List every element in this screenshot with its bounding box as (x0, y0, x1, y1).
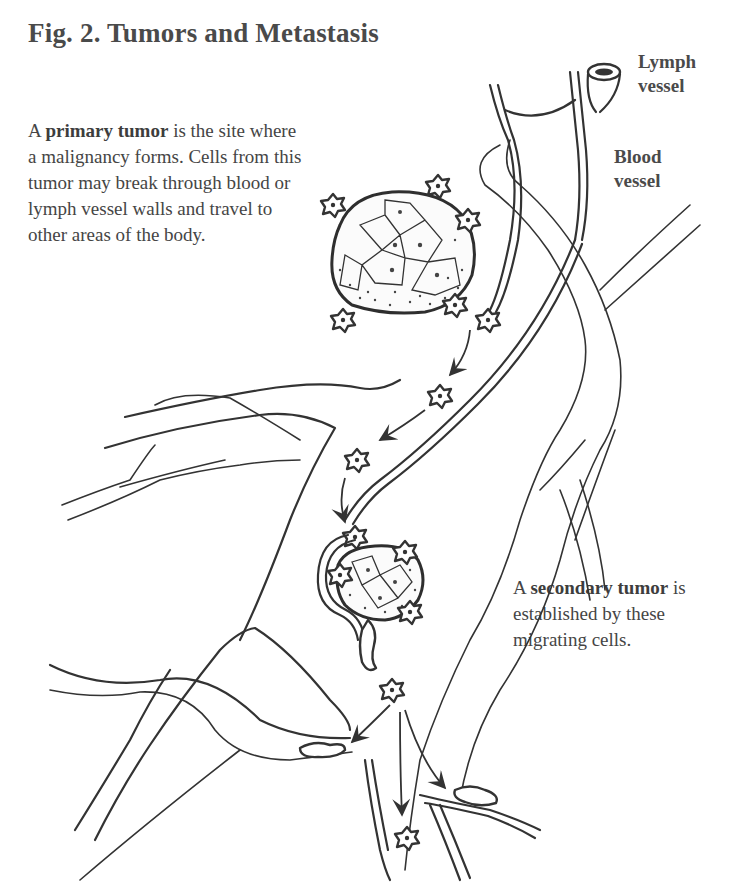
secondary-tumor (318, 535, 423, 670)
branch-vessels-lower (365, 760, 540, 880)
primary-tumor (321, 175, 480, 332)
cells-in-vessels (300, 743, 497, 805)
metastasis-illustration (0, 0, 739, 892)
